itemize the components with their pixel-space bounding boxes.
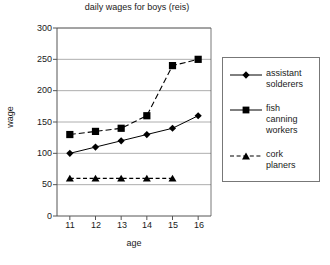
datapoint-fish-canning-workers-13 [118, 125, 125, 132]
series-line-fish-canning-workers [70, 59, 198, 134]
series-line-assistant-solderers [70, 116, 198, 154]
datapoint-fish-canning-workers-11 [66, 131, 73, 138]
legend-label-cork-planers: cork planers [263, 149, 296, 171]
legend-label-line-2: planers [266, 160, 296, 171]
legend-label-line-3: workers [266, 125, 298, 136]
chart-legend: assistant solderers fish canning workers [222, 57, 320, 182]
datapoint-assistant-solderers-13 [118, 137, 125, 144]
chart-figure: daily wages for boys (reis) wage age 300… [0, 0, 330, 265]
legend-item-fish-canning-workers[interactable]: fish canning workers [229, 103, 319, 136]
datapoint-assistant-solderers-14 [143, 131, 150, 138]
legend-label-line-1: cork [266, 149, 296, 160]
legend-key-square [229, 104, 263, 116]
legend-label-line-1: fish [266, 103, 298, 114]
legend-label-line-2: solderers [266, 79, 303, 90]
datapoint-fish-canning-workers-15 [169, 62, 176, 69]
datapoint-fish-canning-workers-16 [195, 56, 202, 63]
datapoint-assistant-solderers-16 [195, 112, 202, 119]
datapoint-fish-canning-workers-14 [143, 112, 150, 119]
legend-label-line-2: canning [266, 114, 298, 125]
legend-item-assistant-solderers[interactable]: assistant solderers [229, 68, 319, 90]
legend-item-cork-planers[interactable]: cork planers [229, 149, 319, 171]
datapoint-assistant-solderers-12 [92, 143, 99, 150]
datapoint-assistant-solderers-11 [66, 150, 73, 157]
legend-label-line-1: assistant [266, 68, 303, 79]
legend-key-triangle [229, 150, 263, 162]
legend-label-fish-canning-workers: fish canning workers [263, 103, 298, 136]
legend-label-assistant-solderers: assistant solderers [263, 68, 303, 90]
datapoint-assistant-solderers-15 [169, 125, 176, 132]
datapoint-fish-canning-workers-12 [92, 128, 99, 135]
legend-key-diamond [229, 69, 263, 81]
